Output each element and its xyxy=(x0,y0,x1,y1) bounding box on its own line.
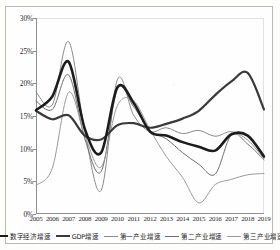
x-tick-label: 2017 xyxy=(225,215,238,223)
legend-label: GDP增速 xyxy=(72,231,99,241)
y-tick-label: 10% xyxy=(20,144,33,153)
x-tick-label: 2016 xyxy=(209,215,222,223)
legend-label: 第一产业增速 xyxy=(120,231,161,241)
legend-label: 数字经济增速 xyxy=(10,231,51,241)
legend-item[interactable]: 第二产业增速 xyxy=(165,231,222,241)
y-tick-label: 5% xyxy=(23,177,33,186)
x-tick-label: 2015 xyxy=(192,215,205,223)
chart-page: 0%5%10%15%20%25%30% 20052006200720082009… xyxy=(0,0,280,250)
legend-swatch-icon xyxy=(227,236,241,237)
x-tick-label: 2012 xyxy=(144,215,157,223)
x-tick-label: 2019 xyxy=(258,215,271,223)
x-tick-label: 2009 xyxy=(95,215,108,223)
series-lines xyxy=(36,18,264,214)
legend-label: 第二产业增速 xyxy=(181,231,222,241)
legend-item[interactable]: 数字经济增速 xyxy=(0,231,51,241)
legend-item[interactable]: 第三产业增速 xyxy=(227,231,280,241)
legend-swatch-icon xyxy=(104,236,118,237)
x-tick-label: 2006 xyxy=(46,215,59,223)
legend-swatch-icon xyxy=(0,235,8,237)
x-tick-label: 2005 xyxy=(30,215,43,223)
x-tick-label: 2013 xyxy=(160,215,173,223)
y-tick-label: 15% xyxy=(20,112,33,121)
x-tick-label: 2011 xyxy=(127,215,140,223)
series-line xyxy=(36,61,264,156)
x-tick-label: 2008 xyxy=(78,215,91,223)
x-tick-label: 2018 xyxy=(241,215,254,223)
plot-area xyxy=(36,18,264,214)
x-tick-label: 2007 xyxy=(62,215,75,223)
y-tick-label: 20% xyxy=(20,79,33,88)
legend-item[interactable]: 第一产业增速 xyxy=(104,231,161,241)
legend-label: 第三产业增速 xyxy=(243,231,280,241)
y-tick-label: 30% xyxy=(20,14,33,23)
series-line xyxy=(36,74,264,175)
legend-swatch-icon xyxy=(56,235,70,237)
x-axis-labels: 2005200620072008200920102011201220132014… xyxy=(36,215,264,227)
x-tick-label: 2010 xyxy=(111,215,124,223)
chart-legend: 数字经济增速GDP增速第一产业增速第二产业增速第三产业增速 xyxy=(8,230,270,242)
x-tick-label: 2014 xyxy=(176,215,189,223)
legend-item[interactable]: GDP增速 xyxy=(56,231,99,241)
legend-swatch-icon xyxy=(165,236,179,237)
y-axis-labels: 0%5%10%15%20%25%30% xyxy=(0,18,33,214)
y-tick-label: 25% xyxy=(20,46,33,55)
series-line xyxy=(36,92,264,203)
